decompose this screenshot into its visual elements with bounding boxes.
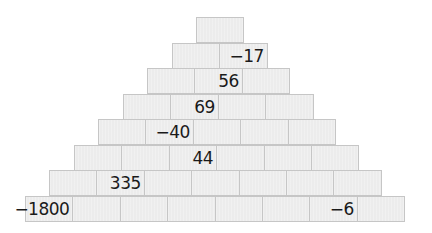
pyramid-cell[interactable]: −6 xyxy=(309,196,357,222)
pyramid-cell[interactable] xyxy=(123,94,171,120)
pyramid-cell[interactable] xyxy=(239,170,287,196)
pyramid-cell[interactable]: −1800 xyxy=(25,196,73,222)
pyramid-cell[interactable] xyxy=(120,196,168,222)
pyramid-cell[interactable] xyxy=(333,170,381,196)
pyramid-cell[interactable] xyxy=(144,170,192,196)
pyramid-cell[interactable] xyxy=(264,145,312,171)
pyramid-cell[interactable]: 44 xyxy=(169,145,217,171)
pyramid-cell[interactable] xyxy=(286,170,334,196)
pyramid-cell[interactable] xyxy=(74,145,122,171)
pyramid-cell[interactable] xyxy=(121,145,169,171)
pyramid-row-1 xyxy=(196,17,244,43)
pyramid-cell[interactable] xyxy=(98,119,146,145)
pyramid-cell[interactable] xyxy=(242,68,290,94)
pyramid-cell[interactable] xyxy=(167,196,215,222)
pyramid-cell[interactable] xyxy=(147,68,195,94)
pyramid-row-3: 56 xyxy=(147,68,290,94)
pyramid-cell[interactable]: 69 xyxy=(170,94,218,120)
pyramid-cell[interactable] xyxy=(311,145,359,171)
pyramid-row-5: −40 xyxy=(98,119,336,145)
pyramid-cell[interactable] xyxy=(262,196,310,222)
pyramid-cell[interactable] xyxy=(172,43,220,69)
pyramid-row-8: −1800 −6 xyxy=(25,196,405,222)
pyramid-cell[interactable]: −40 xyxy=(145,119,193,145)
pyramid-cell[interactable]: −17 xyxy=(219,43,267,69)
pyramid-cell[interactable] xyxy=(196,17,244,43)
pyramid-cell[interactable] xyxy=(240,119,288,145)
pyramid-cell[interactable] xyxy=(193,119,241,145)
pyramid-cell[interactable] xyxy=(72,196,120,222)
pyramid-cell[interactable] xyxy=(265,94,313,120)
number-pyramid: −17 56 69 −40 44 335 − xyxy=(0,0,432,233)
pyramid-row-7: 335 xyxy=(49,170,382,196)
pyramid-cell[interactable] xyxy=(49,170,97,196)
pyramid-cell[interactable]: 335 xyxy=(96,170,144,196)
pyramid-cell[interactable] xyxy=(215,196,263,222)
pyramid-row-2: −17 xyxy=(172,43,268,69)
pyramid-row-6: 44 xyxy=(74,145,359,171)
pyramid-row-4: 69 xyxy=(123,94,314,120)
pyramid-cell[interactable] xyxy=(288,119,336,145)
pyramid-cell[interactable]: 56 xyxy=(194,68,242,94)
pyramid-cell[interactable] xyxy=(357,196,405,222)
pyramid-cell[interactable] xyxy=(216,145,264,171)
pyramid-cell[interactable] xyxy=(191,170,239,196)
pyramid-cell[interactable] xyxy=(218,94,266,120)
